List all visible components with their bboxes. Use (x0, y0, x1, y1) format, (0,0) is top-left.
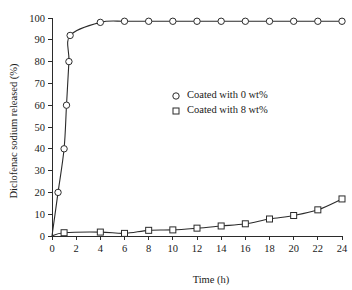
y-tick-label: 80 (35, 56, 46, 67)
data-point-marker (170, 18, 176, 24)
legend-item: Coated with 0 wt% (173, 89, 268, 100)
data-point-marker (97, 19, 103, 25)
series-2 (52, 196, 345, 236)
chart-container: 0102030405060708090100 02468101214161820… (0, 0, 352, 290)
x-tick-label: 22 (313, 243, 324, 254)
x-tick-label: 2 (74, 243, 79, 254)
data-point-marker (339, 196, 345, 202)
data-point-marker (242, 221, 248, 227)
x-tick-label: 12 (192, 243, 203, 254)
data-point-marker (267, 216, 273, 222)
data-point-marker (218, 223, 224, 229)
data-point-marker (291, 213, 297, 219)
data-point-marker (218, 18, 224, 24)
legend-item: Coated with 8 wt% (173, 104, 268, 115)
x-tick-label: 18 (264, 243, 275, 254)
data-point-marker (66, 58, 72, 64)
legend-marker-circle (173, 93, 179, 99)
y-tick-label: 50 (35, 122, 46, 133)
y-tick-label: 40 (35, 143, 46, 154)
y-tick-label: 20 (35, 187, 46, 198)
y-tick-label: 60 (35, 100, 46, 111)
data-point-marker (170, 227, 176, 233)
data-point-marker (61, 146, 67, 152)
x-tick-label: 0 (49, 243, 54, 254)
data-point-marker (266, 18, 272, 24)
y-tick-label: 90 (35, 34, 46, 45)
data-point-marker (55, 189, 61, 195)
axes (52, 18, 342, 236)
x-tick-label: 8 (146, 243, 151, 254)
data-point-marker (67, 32, 73, 38)
x-tick-label: 24 (337, 243, 348, 254)
data-point-marker (242, 18, 248, 24)
data-point-marker (146, 227, 152, 233)
series-curve (52, 21, 342, 236)
data-point-marker (97, 229, 103, 235)
data-point-marker (194, 18, 200, 24)
x-axis-ticks: 024681012141618202224 (49, 236, 348, 254)
y-tick-label: 0 (40, 231, 45, 242)
data-point-marker (290, 18, 296, 24)
legend-label: Coated with 8 wt% (187, 104, 268, 115)
x-tick-label: 4 (98, 243, 104, 254)
data-point-marker (63, 102, 69, 108)
data-point-marker (315, 207, 321, 213)
data-point-marker (315, 18, 321, 24)
y-axis-ticks: 0102030405060708090100 (29, 13, 52, 242)
x-axis-title: Time (h) (193, 274, 230, 286)
x-tick-label: 16 (240, 243, 251, 254)
x-tick-label: 14 (216, 243, 227, 254)
y-tick-label: 70 (35, 78, 46, 89)
data-point-marker (194, 225, 200, 231)
y-tick-label: 30 (35, 165, 46, 176)
data-series (52, 18, 345, 236)
x-tick-label: 20 (288, 243, 299, 254)
legend-label: Coated with 0 wt% (187, 89, 268, 100)
data-point-marker (122, 230, 128, 236)
data-point-marker (121, 18, 127, 24)
chart-legend: Coated with 0 wt%Coated with 8 wt% (173, 89, 268, 115)
legend-marker-square (173, 108, 179, 114)
series-1 (52, 18, 345, 236)
y-tick-label: 100 (29, 13, 45, 24)
y-tick-label: 10 (35, 209, 46, 220)
axis-spines (52, 18, 342, 236)
data-point-marker (339, 18, 345, 24)
x-tick-label: 10 (168, 243, 179, 254)
y-axis-title: Diclofenac sodium released (%) (8, 63, 20, 198)
data-point-marker (61, 230, 67, 236)
release-profile-chart: 0102030405060708090100 02468101214161820… (0, 0, 352, 290)
data-point-marker (145, 18, 151, 24)
x-tick-label: 6 (122, 243, 127, 254)
series-markers (61, 196, 345, 236)
